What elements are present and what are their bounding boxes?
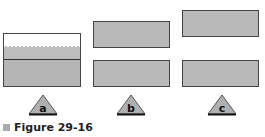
liquid-surface	[4, 45, 80, 48]
panel-c-lower-block	[182, 60, 259, 87]
label-c-triangle-icon: c	[207, 94, 237, 116]
panel-a-container	[3, 33, 81, 87]
label-c: c	[207, 102, 237, 115]
panel-b-lower-block	[93, 60, 170, 87]
panel-b-upper-block	[93, 21, 170, 48]
caption-square-icon	[3, 124, 10, 131]
label-b-triangle-icon: b	[116, 94, 146, 116]
figure-caption: Figure 29-16	[3, 121, 93, 134]
label-b: b	[116, 102, 146, 115]
label-a-triangle-icon: a	[28, 94, 58, 116]
caption-text: Figure 29-16	[14, 121, 93, 134]
submerged-block	[4, 59, 80, 86]
label-a: a	[28, 102, 58, 115]
panel-c-upper-block	[182, 10, 259, 37]
